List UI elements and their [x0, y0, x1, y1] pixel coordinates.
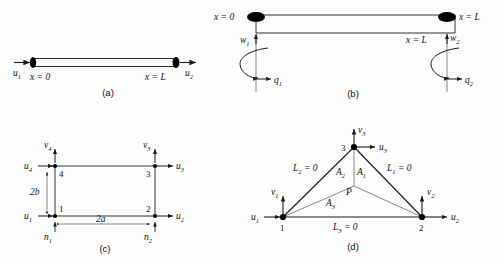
label-dim-2b: 2b	[30, 187, 40, 197]
label-node-1: 1	[59, 204, 64, 214]
label-point-P: P	[345, 187, 352, 197]
tri-node-1	[280, 214, 286, 220]
rect-node-2	[153, 214, 157, 218]
tri-node-2	[419, 214, 425, 220]
rect-node-4	[53, 164, 57, 168]
label-x-zero-b: x = 0	[213, 12, 234, 22]
label-x-zero-a: x = 0	[29, 72, 50, 82]
figure-container: u1 u2 x = 0 x = L (a) x = 0 x = L	[0, 0, 499, 262]
shaft-node-left	[247, 12, 265, 22]
label-L2-zero: L2 = 0	[292, 163, 318, 175]
label-x-L-bottom-b: x = L	[405, 35, 427, 45]
label-node-2: 2	[146, 204, 151, 214]
rect-node-3	[153, 164, 157, 168]
rect-node-1	[53, 214, 57, 218]
label-tri-node-2: 2	[419, 223, 424, 233]
shaft-node-right	[438, 12, 456, 22]
label-node-4: 4	[59, 169, 64, 179]
label-dim-2a: 2a	[96, 214, 106, 224]
label-node-3: 3	[146, 169, 151, 179]
bar-node-left	[30, 57, 36, 68]
panel-caption-c: (c)	[99, 243, 110, 254]
label-x-L-a: x = L	[144, 72, 166, 82]
label-L1-zero: L1 = 0	[386, 163, 412, 175]
label-L3-zero: L3 = 0	[332, 222, 358, 234]
label-tri-node-1: 1	[280, 223, 285, 233]
bar-node-right	[173, 57, 179, 68]
panel-caption-b: (b)	[347, 88, 359, 99]
label-x-L-top-b: x = L	[458, 12, 480, 22]
panel-caption-a: (a)	[102, 87, 114, 98]
finite-element-figure: u1 u2 x = 0 x = L (a) x = 0 x = L	[0, 0, 499, 262]
label-tri-node-3: 3	[341, 143, 346, 153]
tri-node-3	[351, 144, 357, 150]
panel-caption-d: (d)	[347, 241, 359, 252]
